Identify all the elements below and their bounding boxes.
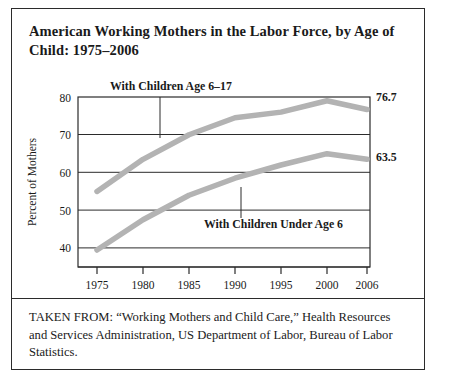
section-divider <box>12 298 424 299</box>
y-axis-title: Percent of Mothers <box>26 137 38 226</box>
line-chart-svg: 80 70 60 50 40 Percent of Mothers <box>12 75 426 297</box>
x-tick-1990: 1990 <box>224 279 247 291</box>
end-value-lower: 63.5 <box>376 150 397 164</box>
series-label-children-under-6: With Children Under Age 6 <box>204 217 343 231</box>
x-axis-ticks: 1975 1980 1985 1990 1995 2000 2006 <box>86 279 379 291</box>
x-axis <box>78 267 370 274</box>
x-tick-1975: 1975 <box>86 279 109 291</box>
y-tick-80: 80 <box>60 92 72 104</box>
figure-container: American Working Mothers in the Labor Fo… <box>11 8 425 370</box>
y-tick-40: 40 <box>60 242 72 254</box>
x-tick-2006: 2006 <box>356 279 379 291</box>
y-tick-70: 70 <box>60 129 72 141</box>
series-label-children-6-17: With Children Age 6–17 <box>110 79 232 93</box>
y-tick-50: 50 <box>60 205 72 217</box>
x-tick-1995: 1995 <box>270 279 293 291</box>
y-axis-ticks: 80 70 60 50 40 <box>60 92 72 255</box>
x-tick-1985: 1985 <box>178 279 201 291</box>
x-tick-1980: 1980 <box>132 279 155 291</box>
chart-plot-area: 80 70 60 50 40 Percent of Mothers <box>12 75 426 297</box>
x-tick-2000: 2000 <box>316 279 339 291</box>
y-tick-60: 60 <box>60 167 72 179</box>
source-note: TAKEN FROM: “Working Mothers and Child C… <box>29 309 411 362</box>
end-value-upper: 76.7 <box>376 90 397 104</box>
page-title: American Working Mothers in the Labor Fo… <box>29 22 409 60</box>
